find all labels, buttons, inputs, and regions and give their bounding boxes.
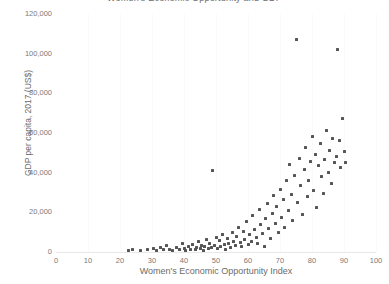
data-point [266, 202, 269, 205]
data-point [275, 205, 278, 208]
data-point [339, 166, 342, 169]
data-point [267, 227, 270, 230]
data-point [304, 146, 307, 149]
data-point [184, 249, 187, 252]
data-point [243, 238, 246, 241]
scatter-chart: Women's Economic Opportunity and GDP 020… [0, 0, 389, 284]
data-point [282, 198, 285, 201]
data-point [242, 230, 245, 233]
data-point [312, 189, 315, 192]
data-point [303, 168, 306, 171]
data-point [232, 240, 235, 243]
data-point [131, 248, 134, 251]
data-point [226, 237, 229, 240]
data-point [219, 245, 222, 248]
data-point [218, 239, 221, 242]
data-point [277, 231, 280, 234]
data-point [231, 231, 234, 234]
data-point [251, 214, 254, 217]
data-point [322, 192, 325, 195]
data-point [274, 222, 277, 225]
data-point [195, 246, 198, 249]
data-point [330, 182, 333, 185]
y-axis-title: GDP per capita, 2017 (US$) [23, 33, 33, 213]
data-point [295, 38, 298, 41]
data-point [229, 246, 232, 249]
data-point [202, 249, 205, 252]
data-point [331, 137, 334, 140]
data-point [333, 161, 336, 164]
data-point [315, 206, 318, 209]
data-point [248, 233, 251, 236]
data-point [261, 232, 264, 235]
data-point [280, 216, 283, 219]
data-point [344, 161, 347, 164]
data-point [239, 241, 242, 244]
y-axis-tick-label: 0 [4, 248, 52, 256]
data-point [283, 226, 286, 229]
x-axis-tick-label: 100 [356, 256, 389, 265]
data-point [341, 117, 344, 120]
data-point [291, 219, 294, 222]
gridline-vertical [216, 14, 217, 252]
data-point [264, 217, 267, 220]
data-point [247, 243, 250, 246]
data-point [311, 135, 314, 138]
gridline-vertical [344, 14, 345, 252]
data-point [227, 242, 230, 245]
data-point [336, 48, 339, 51]
data-point [211, 169, 214, 172]
data-point [234, 244, 237, 247]
gridline-vertical [88, 14, 89, 252]
data-point [271, 212, 274, 215]
data-point [298, 157, 301, 160]
data-point [203, 245, 206, 248]
data-point [299, 184, 302, 187]
data-point [323, 158, 326, 161]
data-point [263, 245, 266, 248]
data-point [319, 142, 322, 145]
chart-title: Women's Economic Opportunity and GDP [0, 0, 389, 4]
data-point [205, 238, 208, 241]
data-point [181, 242, 184, 245]
gridline-vertical [248, 14, 249, 252]
x-axis-title: Women's Economic Opportunity Index [56, 266, 376, 276]
data-point [307, 179, 310, 182]
plot-area [56, 14, 376, 252]
data-point [343, 150, 346, 153]
gridline-vertical [152, 14, 153, 252]
data-point [223, 243, 226, 246]
data-point [221, 233, 224, 236]
data-point [178, 248, 181, 251]
data-point [189, 248, 192, 251]
data-point [146, 248, 149, 251]
data-point [301, 213, 304, 216]
data-point [237, 226, 240, 229]
data-point [191, 243, 194, 246]
data-point [279, 188, 282, 191]
data-point [306, 195, 309, 198]
data-point [250, 240, 253, 243]
data-point [208, 242, 211, 245]
data-point [287, 209, 290, 212]
data-point [325, 129, 328, 132]
data-point [320, 175, 323, 178]
data-point [155, 249, 158, 252]
data-point [288, 163, 291, 166]
data-point [317, 164, 320, 167]
data-point [256, 242, 259, 245]
data-point [197, 240, 200, 243]
data-point [127, 249, 130, 252]
gridline-vertical [120, 14, 121, 252]
data-point [258, 208, 261, 211]
data-point [245, 220, 248, 223]
data-point [290, 193, 293, 196]
data-point [255, 236, 258, 239]
data-point [224, 248, 227, 251]
gridline-vertical [184, 14, 185, 252]
data-point [240, 245, 243, 248]
data-point [328, 149, 331, 152]
data-point [309, 160, 312, 163]
data-point [162, 248, 165, 251]
data-point [139, 249, 142, 252]
